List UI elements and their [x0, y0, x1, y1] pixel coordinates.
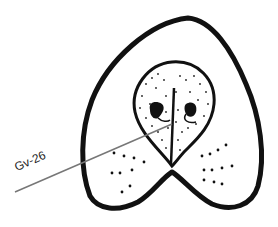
whisker-dots-left [111, 152, 146, 194]
snout-diagram [0, 0, 278, 227]
whisker-dots-right [201, 144, 234, 186]
